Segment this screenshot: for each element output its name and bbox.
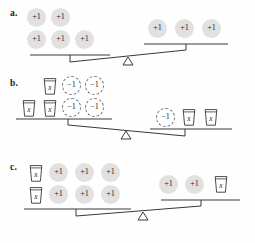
problem-a: a. +1 +1 +1 +1 +1 +1 +1 +1 [0,0,255,72]
problem-c: c. x +1 +1 +1 x +1 [0,150,255,243]
balance-scale-b [0,72,255,132]
balance-beam [76,206,201,216]
problem-b: b. x −1 −1 x x [0,72,255,150]
fulcrum-triangle [138,212,148,220]
worksheet-page: a. +1 +1 +1 +1 +1 +1 +1 +1 [0,0,255,243]
balance-scale-a [0,0,255,60]
fulcrum-triangle [121,131,131,139]
fulcrum-triangle [123,57,133,65]
balance-scale-c [0,150,255,210]
